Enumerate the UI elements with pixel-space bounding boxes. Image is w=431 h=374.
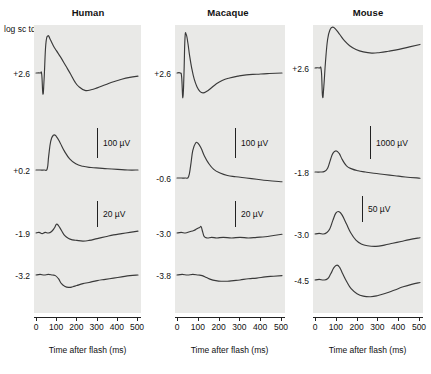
y-label-human-2: -1.9 — [0, 229, 30, 239]
x-tick-label: 200 — [69, 322, 83, 332]
y-label-human-3: -3.2 — [0, 271, 30, 281]
y-label-mouse-0: +2.6 — [277, 64, 309, 74]
x-tick — [56, 317, 57, 321]
x-tick-label: 500 — [130, 322, 144, 332]
x-tick-label: 400 — [391, 322, 405, 332]
x-tick-label: 200 — [212, 322, 226, 332]
x-tick-label: 300 — [370, 322, 384, 332]
scale-bar-line — [97, 201, 98, 227]
scale-bar-label: 100 µV — [241, 138, 268, 148]
x-tick-label: 200 — [350, 322, 364, 332]
erg-trace — [177, 274, 282, 281]
x-tick-label: 300 — [90, 322, 104, 332]
x-tick-label: 0 — [313, 322, 318, 332]
trace-group-mouse — [313, 25, 423, 313]
x-tick — [377, 317, 378, 321]
x-tick — [419, 317, 420, 321]
y-label-macaque-0: +2.6 — [139, 69, 171, 79]
x-tick — [281, 317, 282, 321]
erg-trace — [315, 211, 420, 246]
x-tick-label: 0 — [34, 322, 39, 332]
x-axis-line — [34, 317, 141, 318]
y-label-macaque-2: -3.0 — [139, 229, 171, 239]
scale-bar-label: 20 µV — [103, 209, 125, 219]
y-label-macaque-1: -0.6 — [139, 174, 171, 184]
erg-trace — [177, 33, 282, 98]
y-label-human-0: +2.6 — [0, 69, 30, 79]
scale-bar-label: 100 µV — [103, 138, 130, 148]
trace-group-human — [34, 25, 141, 313]
x-tick-label: 500 — [274, 322, 288, 332]
scale-bar-label: 50 µV — [368, 204, 390, 214]
x-tick-label: 100 — [329, 322, 343, 332]
erg-trace — [315, 27, 420, 98]
x-tick — [117, 317, 118, 321]
x-axis-title-human: Time after flash (ms) — [20, 345, 155, 355]
x-tick — [36, 317, 37, 321]
x-tick — [137, 317, 138, 321]
x-tick — [336, 317, 337, 321]
erg-trace — [315, 151, 420, 178]
plot-area-human — [34, 25, 141, 313]
x-tick — [260, 317, 261, 321]
y-label-mouse-1: -1.8 — [277, 168, 309, 178]
erg-trace — [36, 224, 138, 241]
x-axis-line — [313, 317, 423, 318]
x-tick-label: 400 — [253, 322, 267, 332]
x-tick — [219, 317, 220, 321]
x-tick-label: 300 — [232, 322, 246, 332]
x-tick — [177, 317, 178, 321]
x-tick — [398, 317, 399, 321]
erg-trace — [177, 226, 282, 238]
x-tick-label: 100 — [49, 322, 63, 332]
scale-bar-line — [235, 128, 236, 158]
scale-bar-line — [370, 126, 371, 159]
panel-title-macaque: Macaque — [178, 7, 278, 18]
erg-trace — [36, 274, 138, 287]
scale-bar-line — [362, 196, 363, 222]
trace-group-macaque — [175, 25, 285, 313]
x-tick — [198, 317, 199, 321]
erg-trace — [177, 142, 282, 181]
scale-bar-label: 1000 µV — [376, 138, 408, 148]
x-tick-label: 500 — [412, 322, 426, 332]
x-tick — [239, 317, 240, 321]
x-tick-label: 0 — [175, 322, 180, 332]
x-tick — [97, 317, 98, 321]
x-tick-label: 100 — [191, 322, 205, 332]
plot-area-macaque — [175, 25, 285, 313]
x-axis-line — [175, 317, 285, 318]
plot-area-mouse — [313, 25, 423, 313]
scale-bar-line — [235, 201, 236, 227]
x-tick — [357, 317, 358, 321]
y-label-mouse-2: -3.0 — [277, 230, 309, 240]
y-label-human-1: +0.2 — [0, 166, 30, 176]
x-tick-label: 400 — [110, 322, 124, 332]
erg-trace — [315, 265, 420, 297]
x-tick — [76, 317, 77, 321]
x-axis-title-mouse: Time after flash (ms) — [300, 345, 431, 355]
y-label-macaque-3: -3.8 — [139, 271, 171, 281]
panel-title-mouse: Mouse — [318, 7, 418, 18]
scale-bar-line — [97, 128, 98, 158]
erg-trace — [36, 36, 138, 95]
panel-title-human: Human — [38, 7, 138, 18]
y-label-mouse-3: -4.5 — [277, 276, 309, 286]
scale-bar-label: 20 µV — [241, 209, 263, 219]
x-tick — [315, 317, 316, 321]
x-axis-title-macaque: Time after flash (ms) — [162, 345, 297, 355]
erg-figure: log sc td. s Human +2.6 +0.2 -1.9 -3.2 1… — [0, 0, 431, 374]
